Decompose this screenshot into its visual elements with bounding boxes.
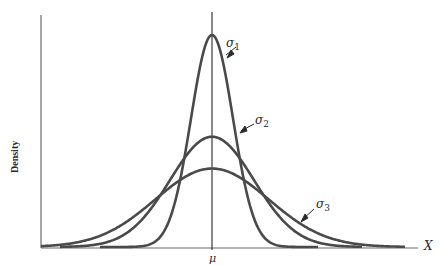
sigma3-label: σ3 (316, 197, 330, 213)
sigma1-label: σ1 (226, 36, 240, 52)
y-axis-label: Density (9, 141, 20, 173)
density-curve-sigma1 (100, 35, 318, 247)
x-axis-label: X (423, 239, 433, 253)
sigma2-label: σ2 (255, 113, 269, 129)
normal-curves-plot: σ1 σ2 σ3 μ X Density (0, 0, 440, 265)
sigma2-arrowhead-icon (240, 126, 247, 133)
chart-canvas: σ1 σ2 σ3 μ X Density (0, 0, 440, 265)
density-curve-sigma2 (60, 137, 362, 247)
density-curve-sigma3 (41, 169, 405, 247)
mu-tick-label: μ (209, 252, 216, 265)
